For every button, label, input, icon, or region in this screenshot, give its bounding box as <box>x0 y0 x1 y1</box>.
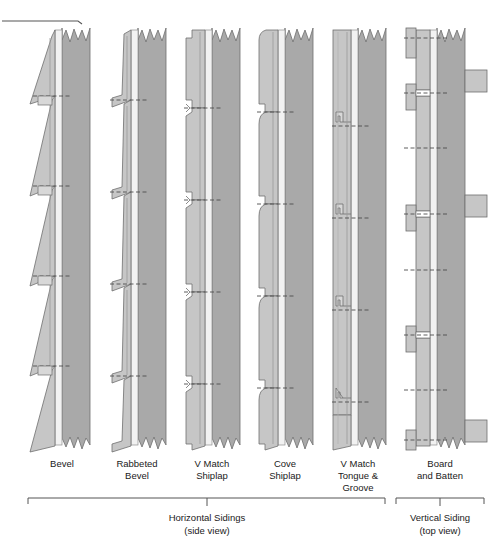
v-match-tg-wall-sheathing <box>358 28 386 449</box>
siding-profiles-diagram: Bevel Rabbeted Bevel V Match Shiplap Cov… <box>0 0 493 549</box>
v-match-shiplap-building-paper <box>205 30 212 445</box>
label-v-match-shiplap-line-2: Shiplap <box>196 470 228 481</box>
board-and-batten-building-paper <box>430 30 437 445</box>
board-and-batten-batten <box>406 28 416 58</box>
v-match-shiplap-board <box>186 292 205 384</box>
v-match-shiplap-board <box>186 384 205 450</box>
board-and-batten-board <box>416 30 430 90</box>
cove-shiplap-board <box>259 296 278 388</box>
label-v-match-shiplap-line-1: V Match <box>195 458 230 469</box>
cove-shiplap-building-paper <box>278 30 285 445</box>
profile-v-match-tongue-and-groove <box>332 28 386 450</box>
board-and-batten-batten <box>406 205 416 231</box>
board-and-batten-board <box>416 338 430 446</box>
label-rabbeted-bevel-line-1: Rabbeted <box>116 458 157 469</box>
label-board-and-batten-line-2: and Batten <box>417 470 463 481</box>
bevel-wall-sheathing <box>62 28 90 449</box>
profile-v-match-shiplap <box>184 28 240 450</box>
group-label-vertical-line-2: (top view) <box>419 525 460 536</box>
v-match-shiplap-board <box>186 200 205 292</box>
label-v-match-tg-line-3: Groove <box>342 482 373 493</box>
cove-shiplap-board <box>259 204 278 296</box>
label-bevel-line-1: Bevel <box>50 458 74 469</box>
v-match-shiplap-board <box>186 108 205 200</box>
group-label-horizontal-line-2: (side view) <box>184 525 229 536</box>
label-cove-shiplap-line-2: Shiplap <box>269 470 301 481</box>
group-label-horizontal-line-1: Horizontal Sidings <box>169 512 246 523</box>
rabbeted-bevel-building-paper <box>131 30 138 445</box>
label-board-and-batten-line-1: Board <box>427 458 452 469</box>
label-v-match-tg-line-1: V Match <box>341 458 376 469</box>
v-match-shiplap-wall-sheathing <box>212 28 240 449</box>
rabbeted-bevel-wall-sheathing <box>138 28 166 449</box>
label-rabbeted-bevel-line-2: Bevel <box>125 470 149 481</box>
profile-cove-shiplap <box>257 28 313 450</box>
bevel-building-paper <box>55 30 62 445</box>
board-and-batten-batten <box>406 326 416 352</box>
board-and-batten-board <box>416 217 430 332</box>
v-match-tg-building-paper <box>351 30 358 445</box>
cove-shiplap-board <box>259 112 278 204</box>
cove-shiplap-board <box>259 388 278 450</box>
label-cove-shiplap-line-1: Cove <box>274 458 296 469</box>
v-match-shiplap-board <box>186 30 205 108</box>
cove-shiplap-board <box>259 30 278 112</box>
v-match-tg-boards <box>333 30 351 450</box>
board-and-batten-wall-sheathing <box>437 28 465 449</box>
siding-diagram-canvas: Bevel Rabbeted Bevel V Match Shiplap Cov… <box>0 0 493 549</box>
group-label-vertical-line-1: Vertical Siding <box>410 512 470 523</box>
v-match-tg-board <box>333 415 351 450</box>
board-and-batten-board <box>416 96 430 211</box>
v-match-tg-board-stack <box>333 30 351 415</box>
label-v-match-tg-line-2: Tongue & <box>338 470 379 481</box>
cove-shiplap-wall-sheathing <box>285 28 313 449</box>
board-and-batten-batten <box>406 84 416 110</box>
